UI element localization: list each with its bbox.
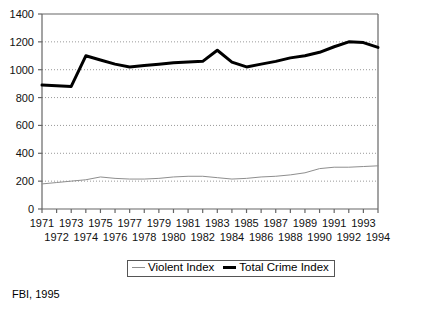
gridlines — [42, 42, 378, 181]
y-tick-label-1400: 1400 — [10, 8, 34, 20]
plot-frame — [42, 14, 378, 209]
line-chart: 0200400600800100012001400 19711973197519… — [0, 0, 428, 262]
x-tick-label-1977: 1977 — [117, 217, 141, 229]
x-tick-label-1993: 1993 — [351, 217, 375, 229]
x-tick-label-1991: 1991 — [322, 217, 346, 229]
series-lines — [42, 42, 378, 184]
x-tick-label-1972: 1972 — [44, 231, 68, 243]
x-tick-label-1975: 1975 — [88, 217, 112, 229]
chart-legend: Violent Index Total Crime Index — [127, 260, 335, 277]
y-tick-label-1000: 1000 — [10, 64, 34, 76]
legend-label-violent-index: Violent Index — [148, 262, 214, 274]
y-tick-labels: 0200400600800100012001400 — [10, 8, 34, 215]
y-tick-label-800: 800 — [16, 92, 34, 104]
x-tick-label-1988: 1988 — [278, 231, 302, 243]
x-tick-label-1992: 1992 — [337, 231, 361, 243]
x-tick-label-1978: 1978 — [132, 231, 156, 243]
x-tick-label-1990: 1990 — [307, 231, 331, 243]
x-tick-label-1984: 1984 — [220, 231, 244, 243]
x-axis-ticks — [42, 209, 378, 213]
y-tick-label-400: 400 — [16, 147, 34, 159]
y-tick-label-600: 600 — [16, 119, 34, 131]
x-tick-label-1971: 1971 — [30, 217, 54, 229]
x-tick-label-1994: 1994 — [366, 231, 390, 243]
x-tick-label-1983: 1983 — [205, 217, 229, 229]
x-tick-label-1973: 1973 — [59, 217, 83, 229]
crime-index-figure: 0200400600800100012001400 19711973197519… — [0, 0, 428, 314]
legend-entry-violent-index: Violent Index — [132, 262, 214, 274]
y-tick-label-200: 200 — [16, 175, 34, 187]
series-line-total-crime-index — [42, 42, 378, 87]
legend-entry-total-crime-index: Total Crime Index — [223, 262, 328, 274]
x-tick-label-1989: 1989 — [293, 217, 317, 229]
x-tick-label-1981: 1981 — [176, 217, 200, 229]
source-note: FBI, 1995 — [12, 288, 60, 300]
y-tick-label-1200: 1200 — [10, 36, 34, 48]
chart-svg: 0200400600800100012001400 19711973197519… — [0, 0, 428, 262]
x-tick-label-1979: 1979 — [147, 217, 171, 229]
x-tick-labels-row2: 1972197419761978198019821984198619881990… — [44, 231, 390, 243]
legend-label-total-crime-index: Total Crime Index — [239, 262, 328, 274]
legend-swatch-total-crime-index — [223, 266, 236, 269]
legend-swatch-violent-index — [132, 267, 145, 268]
x-tick-labels-row1: 1971197319751977197919811983198519871989… — [30, 217, 376, 229]
x-tick-label-1986: 1986 — [249, 231, 273, 243]
x-tick-label-1974: 1974 — [74, 231, 98, 243]
x-tick-label-1985: 1985 — [234, 217, 258, 229]
x-tick-label-1982: 1982 — [190, 231, 214, 243]
x-tick-label-1980: 1980 — [161, 231, 185, 243]
x-tick-label-1987: 1987 — [263, 217, 287, 229]
x-tick-label-1976: 1976 — [103, 231, 127, 243]
y-tick-label-0: 0 — [28, 203, 34, 215]
